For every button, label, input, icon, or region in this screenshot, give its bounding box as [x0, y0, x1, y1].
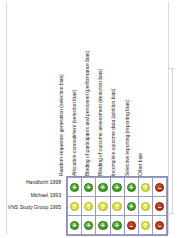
judgement-symbol: ? [142, 204, 149, 210]
judgement-symbol: + [113, 185, 120, 191]
judgement-unclear-icon: ? [84, 202, 93, 211]
judgement-low-icon: + [112, 183, 121, 192]
judgement-unclear-icon: ? [112, 202, 121, 211]
judgement-cell: + [110, 178, 124, 197]
judgement-symbol: + [85, 223, 92, 229]
judgement-grid: +++++?–????+?–++++–?– [66, 176, 168, 236]
judgement-low-icon: + [127, 202, 136, 211]
column-header: Blinding of outcome assessment (detectio… [94, 6, 107, 176]
judgement-unclear-icon: ? [141, 202, 150, 211]
judgement-low-icon: + [84, 221, 93, 230]
judgement-symbol: ? [85, 204, 92, 210]
judgement-high-icon: – [155, 183, 164, 192]
judgement-cell: + [96, 178, 110, 197]
judgement-cell: + [82, 216, 96, 235]
judgement-symbol: + [113, 223, 120, 229]
judgement-cell: – [124, 216, 138, 235]
judgement-high-icon: – [127, 221, 136, 230]
judgement-cell: + [110, 216, 124, 235]
judgement-table: +++++?–????+?–++++–?– [67, 177, 167, 235]
judgement-symbol: + [85, 185, 92, 191]
judgement-cell: – [153, 216, 167, 235]
table-row: ????+?– [68, 197, 167, 216]
judgement-cell: ? [82, 197, 96, 216]
judgement-cell: + [82, 178, 96, 197]
judgement-symbol: ? [71, 204, 78, 210]
judgement-cell: ? [110, 197, 124, 216]
judgement-cell: ? [96, 197, 110, 216]
judgement-symbol: ? [142, 223, 149, 229]
column-header: Binding of participants and personnel (p… [81, 6, 94, 176]
judgement-cell: – [153, 178, 167, 197]
column-header: Other bias [134, 6, 147, 176]
judgement-symbol: ? [142, 185, 149, 191]
judgement-low-icon: + [112, 221, 121, 230]
row-labels: Handforth 1998Michael 1993VNS Study Grou… [0, 176, 64, 214]
judgement-low-icon: + [127, 183, 136, 192]
judgement-cell: + [124, 197, 138, 216]
judgement-symbol: ? [113, 204, 120, 210]
judgement-low-icon: + [84, 183, 93, 192]
judgement-symbol: + [99, 223, 106, 229]
judgement-unclear-icon: ? [141, 221, 150, 230]
judgement-unclear-icon: ? [70, 202, 79, 211]
risk-of-bias-summary-chart: Random sequence generation (selection bi… [0, 0, 180, 238]
row-label: Handforth 1998 [0, 176, 64, 189]
row-label: Michael 1993 [0, 189, 64, 202]
judgement-symbol: + [71, 185, 78, 191]
judgement-symbol: + [71, 223, 78, 229]
table-row: +++++?– [68, 178, 167, 197]
judgement-unclear-icon: ? [98, 202, 107, 211]
judgement-unclear-icon: ? [141, 183, 150, 192]
table-row: ++++–?– [68, 216, 167, 235]
judgement-symbol: – [156, 223, 163, 229]
judgement-cell: – [153, 197, 167, 216]
judgement-cell: ? [138, 178, 152, 197]
judgement-symbol: + [99, 185, 106, 191]
judgement-symbol: ? [99, 204, 106, 210]
column-header: Allocation concealment (selection bias) [68, 6, 81, 176]
judgement-cell: + [68, 178, 82, 197]
judgement-cell: ? [68, 197, 82, 216]
column-headers: Random sequence generation (selection bi… [66, 0, 170, 176]
judgement-cell: ? [138, 197, 152, 216]
judgement-symbol: + [128, 185, 135, 191]
column-header: Incomplete outcome data (attrition bias) [107, 6, 120, 176]
judgement-cell: + [68, 216, 82, 235]
judgement-high-icon: – [155, 202, 164, 211]
judgement-low-icon: + [98, 221, 107, 230]
judgement-low-icon: + [70, 183, 79, 192]
judgement-high-icon: – [155, 221, 164, 230]
judgement-symbol: – [156, 185, 163, 191]
judgement-low-icon: + [98, 183, 107, 192]
column-header: Random sequence generation (selection bi… [55, 6, 68, 176]
column-header: Selective reporting (reporting bias) [121, 6, 134, 176]
judgement-symbol: – [156, 204, 163, 210]
judgement-cell: + [124, 178, 138, 197]
row-label: VNS Study Group 1995 [0, 201, 64, 214]
judgement-cell: + [96, 216, 110, 235]
judgement-cell: ? [138, 216, 152, 235]
judgement-symbol: + [128, 204, 135, 210]
judgement-low-icon: + [70, 221, 79, 230]
judgement-symbol: – [128, 223, 135, 229]
